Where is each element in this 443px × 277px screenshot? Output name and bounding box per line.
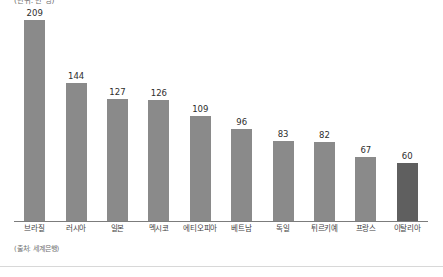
- category-label: 베트남: [221, 224, 262, 234]
- bar-group[interactable]: 209: [14, 8, 55, 221]
- bar-rect[interactable]: [148, 100, 169, 221]
- bar-group[interactable]: 109: [180, 8, 221, 221]
- bar-rect[interactable]: [24, 20, 45, 221]
- bar-chart-figure: (단위: 만 명) 2091441271261099683826760 브라질러…: [0, 0, 443, 277]
- category-label: 멕시코: [138, 224, 179, 234]
- bar-value-label: 82: [319, 130, 330, 140]
- plot-area: 2091441271261099683826760: [0, 8, 443, 222]
- bar-group[interactable]: 127: [97, 8, 138, 221]
- category-label: 독일: [262, 224, 303, 234]
- bar-group[interactable]: 60: [387, 8, 428, 221]
- bar-value-label: 126: [151, 88, 167, 98]
- bar-group[interactable]: 82: [304, 8, 345, 221]
- bar-group[interactable]: 96: [221, 8, 262, 221]
- bar-value-label: 96: [236, 117, 247, 127]
- category-label: 튀르키예: [304, 224, 345, 234]
- bar-rect[interactable]: [397, 163, 418, 221]
- bar-rect[interactable]: [314, 142, 335, 221]
- category-axis-labels: 브라질러시아일본멕시코에티오피아베트남독일튀르키예프랑스이탈리아: [14, 224, 428, 234]
- bar-group[interactable]: 126: [138, 8, 179, 221]
- bar-value-label: 83: [278, 129, 289, 139]
- bar-rect[interactable]: [66, 83, 87, 221]
- bar-rect[interactable]: [107, 99, 128, 221]
- bars-row: 2091441271261099683826760: [14, 8, 428, 221]
- bar-group[interactable]: 144: [55, 8, 96, 221]
- bar-value-label: 109: [192, 104, 208, 114]
- bottom-divider: [0, 266, 443, 267]
- bar-rect[interactable]: [231, 129, 252, 221]
- category-label: 에티오피아: [180, 224, 221, 234]
- category-label: 브라질: [14, 224, 55, 234]
- bar-value-label: 144: [68, 71, 84, 81]
- bar-group[interactable]: 67: [345, 8, 386, 221]
- category-label: 프랑스: [345, 224, 386, 234]
- bar-rect[interactable]: [190, 116, 211, 221]
- bar-value-label: 60: [402, 151, 413, 161]
- x-axis-line: [14, 221, 428, 222]
- bar-rect[interactable]: [273, 141, 294, 221]
- bar-value-label: 67: [360, 145, 371, 155]
- category-label: 일본: [97, 224, 138, 234]
- unit-caption: (단위: 만 명): [14, 0, 54, 5]
- bar-group[interactable]: 83: [262, 8, 303, 221]
- category-label: 러시아: [55, 224, 96, 234]
- bar-value-label: 127: [109, 87, 125, 97]
- bar-rect[interactable]: [355, 157, 376, 221]
- category-label: 이탈리아: [387, 224, 428, 234]
- source-note: (출처: 세계은행): [14, 245, 59, 254]
- bar-value-label: 209: [27, 8, 43, 18]
